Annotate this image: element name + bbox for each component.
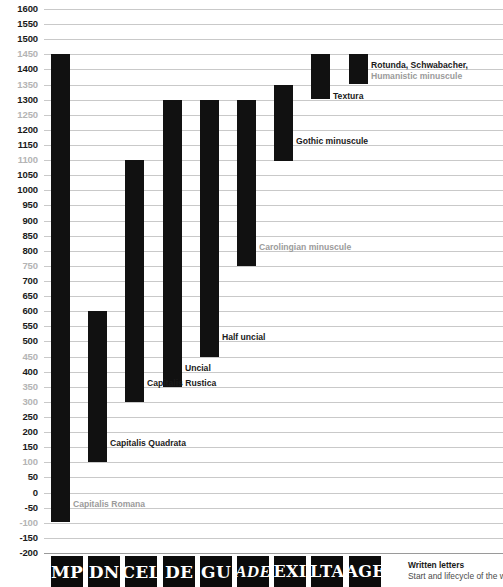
bar-label-half-uncial: Half uncial (222, 332, 265, 342)
y-tick--100: -100 (0, 518, 38, 528)
specimen-capitalis-quadrata: DN (88, 556, 120, 587)
y-tick-1550: 1550 (0, 19, 38, 29)
y-tick-1050: 1050 (0, 170, 38, 180)
y-tick-900: 900 (0, 216, 38, 226)
y-tick-1500: 1500 (0, 34, 38, 44)
y-tick-1450: 1450 (0, 49, 38, 59)
y-tick-1100: 1100 (0, 155, 38, 165)
specimen-textura: LTA (311, 556, 343, 587)
gridline--100 (44, 523, 503, 524)
gridline-1450 (44, 54, 503, 55)
bar-label-humanistic-minuscule: Humanistic minuscule (371, 71, 462, 81)
bar-gothic-minuscule (274, 85, 293, 161)
y-tick-250: 250 (0, 412, 38, 422)
gridline-650 (44, 296, 503, 297)
bar-label-capitalis-rustica: Capitalis Rustica (147, 378, 216, 388)
y-tick-300: 300 (0, 397, 38, 407)
bar-label-capitalis-romana: Capitalis Romana (73, 499, 145, 509)
gridline-100 (44, 462, 503, 463)
y-tick-1200: 1200 (0, 125, 38, 135)
bar-capitalis-quadrata (88, 311, 107, 462)
gridline-400 (44, 372, 503, 373)
y-tick-700: 700 (0, 276, 38, 286)
y-tick-850: 850 (0, 231, 38, 241)
gridline-850 (44, 236, 503, 237)
y-tick--50: -50 (0, 503, 38, 513)
gridline-350 (44, 387, 503, 388)
bar-label-carolingian-minuscule: Carolingian minuscule (259, 242, 351, 252)
gridline-750 (44, 266, 503, 267)
legend-subtitle: Start and lifecycle of the written (408, 571, 503, 582)
legend-title: Written letters (408, 560, 503, 571)
chart-legend: Written letters Start and lifecycle of t… (408, 560, 503, 582)
bar-label-gothic-minuscule: Gothic minuscule (296, 136, 368, 146)
bar-label-capitalis-quadrata: Capitalis Quadrata (110, 438, 186, 448)
y-tick-400: 400 (0, 367, 38, 377)
bar-uncial (163, 100, 182, 387)
y-tick-1400: 1400 (0, 64, 38, 74)
specimen-gothic-minuscule: EXI (274, 556, 306, 587)
y-tick-1150: 1150 (0, 140, 38, 150)
y-tick-350: 350 (0, 382, 38, 392)
specimen-rotunda-schwabacher-humanistic-minuscule: AGE (349, 556, 381, 587)
bar-label-rotunda-schwabacher-humanistic-minuscule: Rotunda, Schwabacher, (371, 60, 468, 70)
gridline-1050 (44, 175, 503, 176)
y-tick-550: 550 (0, 321, 38, 331)
y-tick-800: 800 (0, 246, 38, 256)
gridline-500 (44, 341, 503, 342)
y-tick-1600: 1600 (0, 4, 38, 14)
y-tick-600: 600 (0, 306, 38, 316)
specimen-half-uncial: GU (200, 556, 232, 587)
y-tick-150: 150 (0, 442, 38, 452)
y-tick-1000: 1000 (0, 185, 38, 195)
y-tick-1350: 1350 (0, 80, 38, 90)
y-tick-750: 750 (0, 261, 38, 271)
gridline--150 (44, 538, 503, 539)
y-tick--150: -150 (0, 533, 38, 543)
bar-half-uncial (200, 100, 219, 357)
gridline-250 (44, 417, 503, 418)
y-tick-100: 100 (0, 457, 38, 467)
gridline-950 (44, 205, 503, 206)
y-tick-950: 950 (0, 200, 38, 210)
y-tick-450: 450 (0, 352, 38, 362)
gridline-50 (44, 477, 503, 478)
gridline-1550 (44, 24, 503, 25)
specimen-capitalis-romana: MP (51, 556, 83, 587)
y-tick-650: 650 (0, 291, 38, 301)
gridline-200 (44, 432, 503, 433)
gridline--200 (44, 553, 503, 554)
bar-rotunda-schwabacher-humanistic-minuscule (349, 54, 368, 84)
y-tick-200: 200 (0, 427, 38, 437)
gridline-900 (44, 221, 503, 222)
bar-textura (311, 54, 330, 99)
gridline-1000 (44, 190, 503, 191)
y-tick-1300: 1300 (0, 95, 38, 105)
gridline-1600 (44, 9, 503, 10)
specimen-uncial: DE (163, 556, 195, 587)
gridline-700 (44, 281, 503, 282)
y-tick-0: 0 (0, 488, 38, 498)
bar-label-uncial: Uncial (185, 363, 211, 373)
specimen-capitalis-rustica: CEL (125, 556, 157, 587)
gridline-0 (44, 493, 503, 494)
gridline-1500 (44, 39, 503, 40)
gridline-450 (44, 357, 503, 358)
timeline-chart: 1600155015001450140013501300125012001150… (0, 0, 503, 587)
y-tick-500: 500 (0, 336, 38, 346)
gridline-600 (44, 311, 503, 312)
bar-label-textura: Textura (333, 91, 363, 101)
y-tick-50: 50 (0, 472, 38, 482)
y-tick-1250: 1250 (0, 110, 38, 120)
gridline-300 (44, 402, 503, 403)
bar-carolingian-minuscule (237, 100, 256, 266)
bar-capitalis-rustica (125, 160, 144, 402)
gridline-550 (44, 326, 503, 327)
bar-capitalis-romana (51, 54, 70, 522)
specimen-carolingian-minuscule: ADE (237, 556, 269, 587)
